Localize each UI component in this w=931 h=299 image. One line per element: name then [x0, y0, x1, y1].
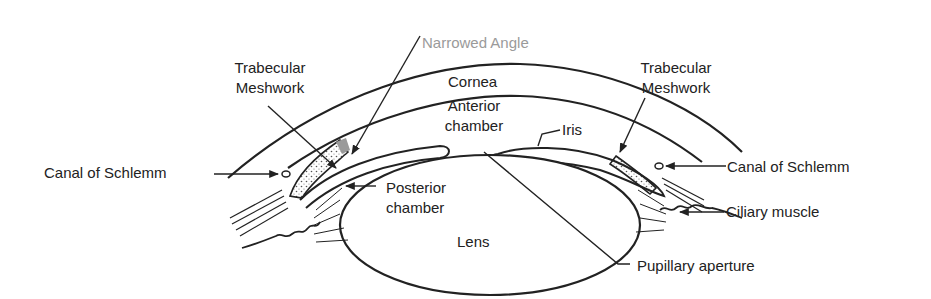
label-trabecular-right-line1: Trabecular: [636, 58, 716, 78]
label-iris: Iris: [562, 120, 582, 140]
label-posterior-line2: chamber: [386, 198, 446, 218]
label-cornea: Cornea: [448, 72, 497, 92]
label-ciliary-muscle: Ciliary muscle: [726, 202, 819, 222]
label-narrowed-angle: Narrowed Angle: [422, 33, 529, 53]
label-trabecular-left-line2: Meshwork: [230, 78, 310, 98]
label-anterior-line2: chamber: [432, 116, 516, 136]
sclera-wavy-left: [242, 222, 320, 248]
label-trabecular-right: Trabecular Meshwork: [636, 58, 716, 98]
ciliary-muscle-left: [230, 190, 288, 236]
label-anterior-line1: Anterior: [432, 96, 516, 116]
label-posterior-line1: Posterior: [386, 178, 446, 198]
canal-of-schlemm-left: [282, 171, 290, 177]
lens: [340, 155, 640, 295]
label-posterior-chamber: Posterior chamber: [386, 178, 446, 218]
label-trabecular-left: Trabecular Meshwork: [230, 58, 310, 98]
label-canal-of-schlemm-left: Canal of Schlemm: [44, 163, 167, 183]
canal-of-schlemm-right: [655, 163, 663, 169]
label-anterior-chamber: Anterior chamber: [432, 96, 516, 136]
label-lens: Lens: [457, 232, 490, 252]
label-pupillary-aperture: Pupillary aperture: [637, 256, 755, 276]
label-trabecular-right-line2: Meshwork: [636, 78, 716, 98]
label-trabecular-left-line1: Trabecular: [230, 58, 310, 78]
label-canal-of-schlemm-right: Canal of Schlemm: [727, 157, 850, 177]
